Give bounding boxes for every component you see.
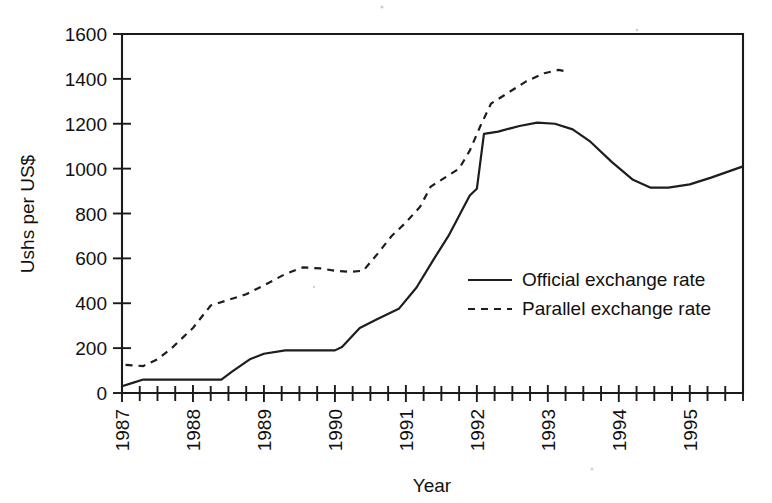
exchange-rate-figure: 02004006008001000120014001600 1987198819… [0,0,772,503]
x-tick-label: 1992 [467,409,488,451]
x-tick-label: 1991 [396,409,417,451]
y-tick-label: 800 [75,204,107,225]
scan-artifacts [313,5,639,470]
plot-frame [122,34,743,393]
x-axis-title: Year [413,475,452,496]
y-tick-label: 1400 [65,69,107,90]
x-tick-label: 1994 [609,409,630,452]
chart-legend: Official exchange rateParallel exchange … [468,269,711,319]
y-tick-label: 400 [75,293,107,314]
x-tick-label: 1990 [325,409,346,451]
legend-label: Official exchange rate [522,269,705,290]
series-line-parallel-exchange-rate [126,70,570,366]
x-tick-label: 1995 [680,409,701,451]
exchange-rate-line-chart: 02004006008001000120014001600 1987198819… [0,0,772,503]
y-tick-label: 1600 [65,24,107,45]
y-axis-title: Ushs per US$ [17,154,38,273]
y-tick-label: 200 [75,338,107,359]
y-tick-label: 600 [75,248,107,269]
y-tick-label: 0 [96,383,107,404]
x-tick-label: 1987 [112,409,133,451]
y-tick-label: 1000 [65,159,107,180]
legend-label: Parallel exchange rate [522,298,711,319]
x-tick-label: 1993 [538,409,559,451]
series-line-official-exchange-rate [122,123,743,387]
x-tick-label: 1989 [254,409,275,451]
data-series-layer [122,70,743,386]
y-tick-label: 1200 [65,114,107,135]
x-axis: 198719881989199019911992199319941995 [112,385,743,451]
x-tick-label: 1988 [183,409,204,451]
